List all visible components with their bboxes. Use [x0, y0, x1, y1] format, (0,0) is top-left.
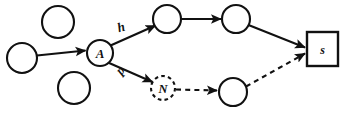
circle-node-bottom-left — [58, 72, 90, 104]
edge-lower1-to-s — [246, 54, 305, 87]
edge-label-h: h — [115, 19, 126, 35]
edge-n-to-lower1 — [176, 90, 217, 91]
graph-diagram: A N s h p — [0, 0, 342, 117]
edge-midleft-to-a — [37, 51, 86, 56]
circle-node-lower-first — [219, 78, 247, 106]
node-s: s — [307, 32, 338, 66]
node-a: A — [87, 40, 113, 66]
circle-node-upper-second — [222, 5, 250, 33]
node-n: N — [151, 76, 175, 100]
node-n-label: N — [157, 82, 168, 96]
circle-node-upper-first — [153, 5, 181, 33]
edge-upper2-to-s — [249, 25, 306, 48]
node-a-label: A — [95, 46, 105, 61]
node-s-label: s — [319, 43, 325, 57]
circle-node-top-left — [42, 6, 74, 38]
circle-node-mid-left — [7, 43, 37, 73]
diagram-canvas: A N s h p — [0, 0, 342, 117]
